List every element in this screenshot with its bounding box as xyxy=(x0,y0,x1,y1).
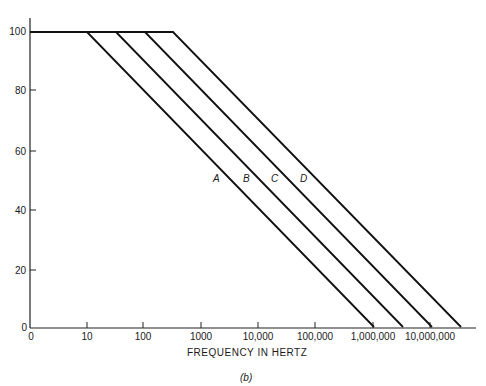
svg-text:0: 0 xyxy=(28,331,34,342)
curve-label-a: A xyxy=(212,173,220,184)
x-tick-labels: 0 10 100 1000 10,000 100,000 1,000,000 1… xyxy=(28,331,455,342)
svg-text:1000: 1000 xyxy=(190,331,213,342)
svg-text:100,000: 100,000 xyxy=(297,331,334,342)
x-ticks xyxy=(87,322,430,328)
svg-text:40: 40 xyxy=(15,205,27,216)
svg-text:100: 100 xyxy=(135,331,152,342)
curve-label-c: C xyxy=(271,173,279,184)
svg-text:80: 80 xyxy=(15,85,27,96)
curve-label-d: D xyxy=(300,173,307,184)
svg-text:20: 20 xyxy=(15,265,27,276)
svg-text:60: 60 xyxy=(15,146,27,157)
frequency-response-chart: 100 80 60 40 20 0 0 10 100 1000 10,000 1… xyxy=(0,0,486,386)
y-ticks xyxy=(30,90,36,270)
curve-a xyxy=(30,32,374,327)
svg-text:100: 100 xyxy=(9,26,26,37)
svg-text:1,000,000: 1,000,000 xyxy=(351,331,396,342)
figure-caption: (b) xyxy=(240,372,252,383)
curve-label-b: B xyxy=(243,173,250,184)
x-axis-title: FREQUENCY IN HERTZ xyxy=(187,347,307,358)
svg-text:10: 10 xyxy=(81,331,93,342)
svg-text:10,000: 10,000 xyxy=(243,331,274,342)
y-tick-labels: 100 80 60 40 20 0 xyxy=(9,26,27,333)
svg-text:0: 0 xyxy=(21,322,27,333)
svg-text:10,000,000: 10,000,000 xyxy=(405,331,455,342)
